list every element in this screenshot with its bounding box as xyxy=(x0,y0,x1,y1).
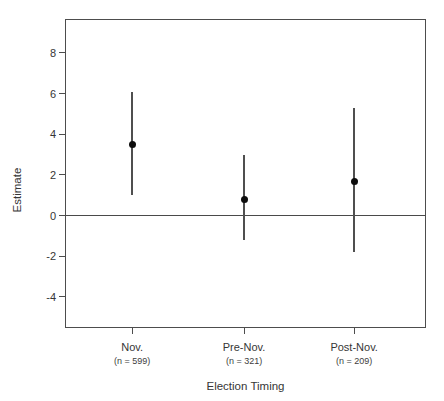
y-tick-label: 4 xyxy=(28,127,56,141)
x-category-label: Post-Nov. xyxy=(309,341,399,354)
y-tick-mark xyxy=(59,52,65,53)
plot-area xyxy=(65,19,426,328)
zero-reference-line xyxy=(65,215,426,216)
y-tick-label: 0 xyxy=(28,209,56,223)
y-tick-label: 6 xyxy=(28,87,56,101)
x-tick-mark xyxy=(132,328,133,334)
x-axis-title: Election Timing xyxy=(176,379,316,393)
y-tick-mark xyxy=(59,256,65,257)
point-estimate-marker xyxy=(129,141,136,148)
y-tick-mark xyxy=(59,93,65,94)
point-estimate-marker xyxy=(351,178,358,185)
x-category-label: Nov. xyxy=(87,341,177,354)
y-tick-mark xyxy=(59,174,65,175)
y-tick-label: 8 xyxy=(28,46,56,60)
x-tick-mark xyxy=(244,328,245,334)
y-tick-label: 2 xyxy=(28,168,56,182)
y-axis-title: Estimate xyxy=(10,150,24,230)
point-estimate-marker xyxy=(241,196,248,203)
x-category-sublabel: (n = 321) xyxy=(199,356,289,367)
x-category-sublabel: (n = 599) xyxy=(87,356,177,367)
y-tick-mark xyxy=(59,296,65,297)
y-tick-mark xyxy=(59,134,65,135)
x-category-sublabel: (n = 209) xyxy=(309,356,399,367)
x-tick-mark xyxy=(354,328,355,334)
estimate-ci-chart: Estimate Election Timing 86420-2-4Nov.(n… xyxy=(0,0,444,401)
y-tick-label: -2 xyxy=(28,249,56,263)
x-category-label: Pre-Nov. xyxy=(199,341,289,354)
y-tick-label: -4 xyxy=(28,290,56,304)
